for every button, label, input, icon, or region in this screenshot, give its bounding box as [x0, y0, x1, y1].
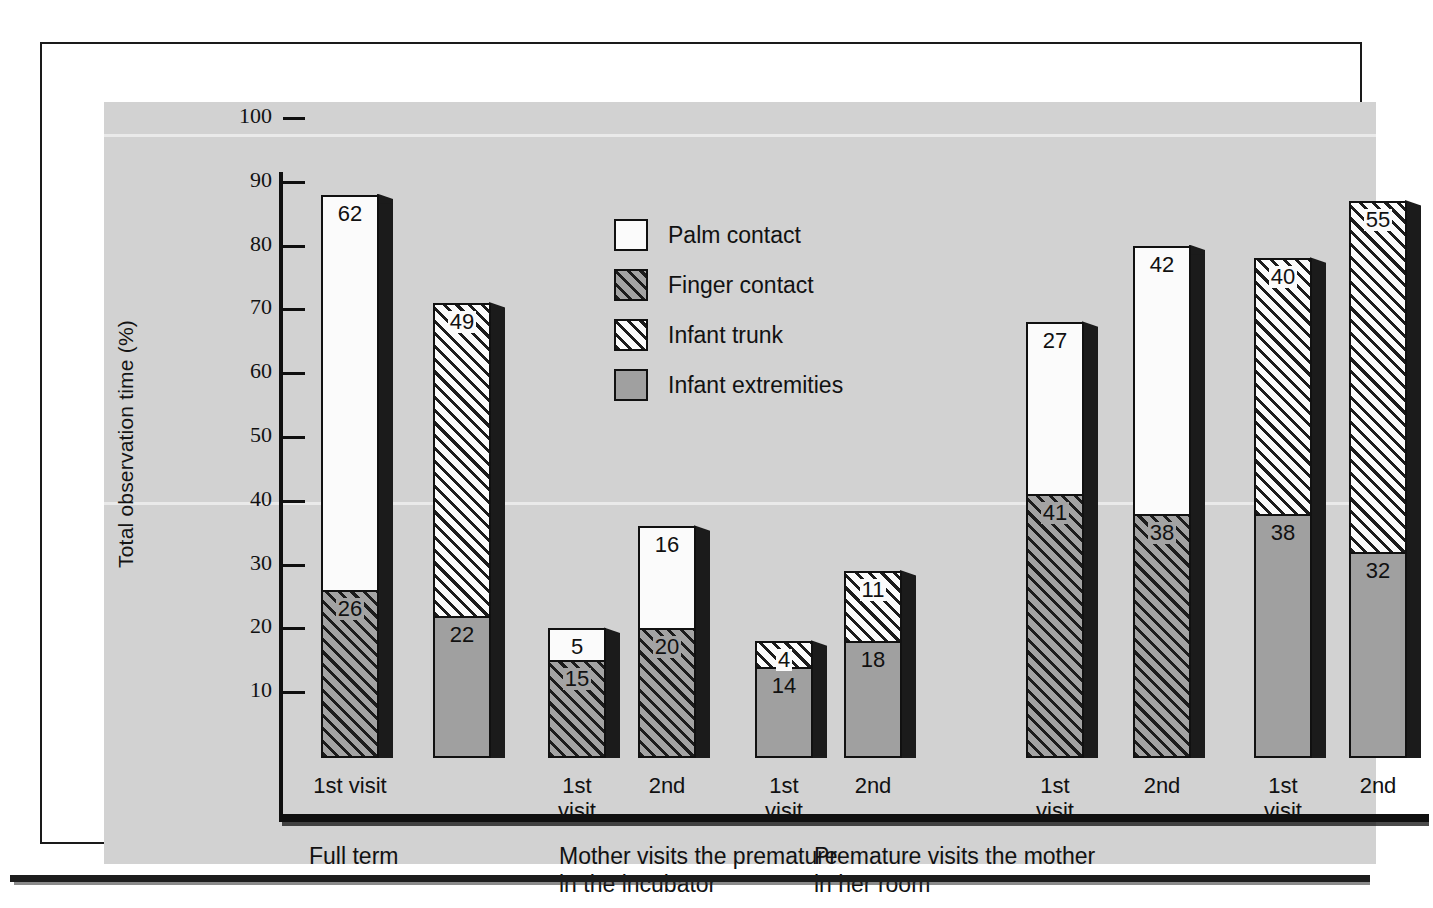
x-tick-label: 2nd [818, 774, 928, 799]
bar-value-label: 32 [1364, 560, 1392, 582]
bar-shadow-top [377, 194, 393, 204]
x-tick-label: 1st visit [1228, 774, 1338, 823]
plot-panel: Total observation time (%) 1020304050607… [104, 102, 1376, 864]
y-tick-mark [283, 181, 305, 184]
group-label: Mother visits the premature in the incub… [559, 842, 838, 898]
bar-shadow [1191, 253, 1205, 758]
bar-shadow [1084, 330, 1098, 758]
bar-shadow [606, 636, 620, 758]
x-tick-label: 1st visit [1000, 774, 1110, 823]
bar-segment: 38 [1133, 514, 1191, 758]
y-tick-mark [283, 245, 305, 248]
y-tick-label: 80 [212, 233, 272, 255]
group-label: Full term [309, 842, 398, 870]
bar-value-label: 38 [1269, 522, 1297, 544]
bar-value-label: 5 [569, 636, 585, 658]
figure-frame: Total observation time (%) 1020304050607… [40, 42, 1362, 844]
bar-shadow-top [694, 525, 710, 535]
bar-segment: 32 [1349, 552, 1407, 758]
bar-value-label: 62 [336, 203, 364, 225]
bar-shadow-top [811, 640, 827, 650]
bar-segment: 42 [1133, 246, 1191, 516]
x-tick-label: 1st visit [295, 774, 405, 799]
y-tick-label: 50 [212, 424, 272, 446]
legend-label: Infant trunk [668, 322, 783, 349]
footer-rule [10, 875, 1370, 882]
bar-shadow-top [1405, 200, 1421, 210]
bar-value-label: 41 [1041, 502, 1069, 524]
bar-segment: 14 [755, 667, 813, 758]
bar-segment: 62 [321, 195, 379, 593]
bar-shadow-top [1082, 321, 1098, 331]
bar-shadow-top [489, 302, 505, 312]
bar-shadow-top [604, 627, 620, 637]
bar-segment: 26 [321, 590, 379, 758]
bar-segment: 55 [1349, 201, 1407, 554]
bar-segment: 16 [638, 526, 696, 630]
y-axis-title: Total observation time (%) [114, 164, 138, 724]
bar-segment: 22 [433, 616, 491, 758]
bar-segment: 40 [1254, 258, 1312, 515]
bar-shadow [1407, 209, 1421, 758]
bar-value-label: 15 [563, 668, 591, 690]
bar-value-label: 55 [1364, 209, 1392, 231]
bar-value-label: 14 [770, 675, 798, 697]
x-tick-label: 2nd [1323, 774, 1433, 799]
bar-shadow-top [1310, 257, 1326, 267]
bar-value-label: 16 [653, 534, 681, 556]
y-tick-mark [283, 308, 305, 311]
legend-item: Infant extremities [614, 360, 843, 410]
bar-shadow-top [900, 570, 916, 580]
bar-value-label: 4 [776, 649, 792, 671]
bar-shadow [491, 311, 505, 758]
y-tick-label: 60 [212, 360, 272, 382]
y-tick-label: 10 [212, 679, 272, 701]
y-tick-label: 40 [212, 488, 272, 510]
bar-value-label: 42 [1148, 254, 1176, 276]
bar-value-label: 11 [860, 579, 887, 601]
legend-item: Infant trunk [614, 310, 843, 360]
y-tick-mark [283, 500, 305, 503]
panel-band [104, 134, 1376, 137]
legend-label: Palm contact [668, 222, 801, 249]
legend-item: Palm contact [614, 210, 843, 260]
bar-segment: 27 [1026, 322, 1084, 496]
bar-value-label: 22 [448, 624, 476, 646]
bar-segment: 4 [755, 641, 813, 669]
legend-swatch-icon [614, 369, 648, 401]
bar-value-label: 26 [336, 598, 364, 620]
bar-shadow [902, 579, 916, 758]
bar-segment: 41 [1026, 494, 1084, 758]
y-tick-mark [283, 117, 305, 120]
bar-shadow [813, 649, 827, 758]
group-label: Premature visits the mother in her room [814, 842, 1095, 898]
bar-value-label: 40 [1269, 266, 1297, 288]
legend-swatch-icon [614, 319, 648, 351]
y-tick-label: 100 [212, 105, 272, 127]
bar-shadow [379, 202, 393, 758]
bar-segment: 5 [548, 628, 606, 662]
bar-segment: 11 [844, 571, 902, 643]
y-tick-mark [283, 372, 305, 375]
y-tick-label: 70 [212, 296, 272, 318]
bar-shadow [696, 534, 710, 758]
y-tick-mark [283, 627, 305, 630]
y-tick-label: 20 [212, 615, 272, 637]
legend-label: Finger contact [668, 272, 814, 299]
x-tick-label: 2nd [612, 774, 722, 799]
legend: Palm contactFinger contactInfant trunkIn… [614, 210, 843, 410]
legend-swatch-icon [614, 269, 648, 301]
y-tick-mark [283, 564, 305, 567]
legend-label: Infant extremities [668, 372, 843, 399]
legend-item: Finger contact [614, 260, 843, 310]
bar-segment: 20 [638, 628, 696, 758]
x-tick-label: 2nd [1107, 774, 1217, 799]
bar-segment: 15 [548, 660, 606, 758]
bar-value-label: 18 [859, 649, 887, 671]
y-tick-mark [283, 691, 305, 694]
bar-segment: 18 [844, 641, 902, 758]
bar-segment: 49 [433, 303, 491, 618]
bar-shadow-top [1189, 245, 1205, 255]
y-axis-line [279, 172, 283, 818]
